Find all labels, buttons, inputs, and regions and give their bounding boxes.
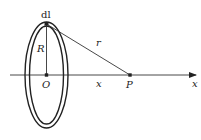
radius-label: R xyxy=(36,43,45,54)
point-p-label: P xyxy=(125,79,133,90)
center-o-point xyxy=(45,73,48,76)
dl-label: dl xyxy=(41,9,51,20)
point-p xyxy=(128,73,131,76)
offset-x-label: x xyxy=(96,78,102,89)
distance-r-line xyxy=(47,24,131,75)
current-loop-diagram: dl R r O x P x xyxy=(0,0,201,140)
distance-r-label: r xyxy=(96,37,102,48)
dl-element-marker xyxy=(45,22,49,26)
axis-x-label: x xyxy=(192,78,198,89)
center-o-label: O xyxy=(42,79,50,90)
